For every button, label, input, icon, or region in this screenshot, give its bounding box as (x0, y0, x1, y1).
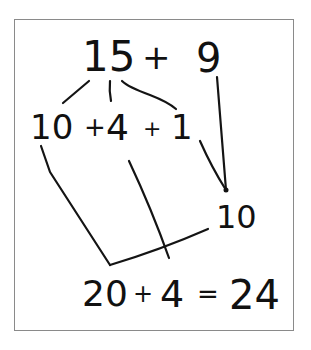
decomposition-diagram: 15 + 9 10 + 4 + 1 10 20 + 4 = 24 (0, 0, 311, 350)
branch-line-to-1 (122, 81, 176, 109)
top-right-operand: 9 (196, 35, 221, 81)
branch-line-to-10 (63, 81, 89, 103)
branch-line-to-4 (110, 81, 111, 101)
line-to-combined-ten (110, 229, 208, 265)
result-answer: 24 (229, 272, 280, 318)
line-from-10 (41, 146, 110, 265)
line-from-4 (129, 161, 169, 258)
combined-ten: 10 (216, 198, 257, 236)
split-part-4: 4 (106, 107, 129, 148)
top-operator: + (142, 37, 171, 77)
split-part-1: 1 (171, 107, 193, 147)
combine-point (224, 188, 229, 193)
result-term-4: 4 (160, 272, 184, 316)
equals-sign: = (197, 279, 219, 309)
split-operator-2: + (143, 116, 161, 141)
result-operator: + (133, 280, 153, 308)
split-part-10: 10 (30, 107, 73, 147)
top-left-operand: 15 (82, 32, 135, 81)
split-operator-1: + (84, 112, 106, 142)
result-term-20: 20 (82, 273, 128, 314)
line-from-9 (217, 77, 226, 190)
